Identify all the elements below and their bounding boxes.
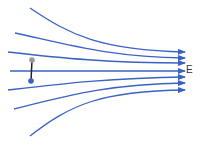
field-line-2 <box>15 33 185 58</box>
field-diagram <box>0 0 204 145</box>
dipole-rod <box>31 60 32 81</box>
field-line-1 <box>30 8 185 52</box>
negative-charge-icon <box>28 78 34 84</box>
field-label: E <box>186 64 193 75</box>
field-line-7 <box>30 90 185 136</box>
positive-charge-icon <box>29 57 35 63</box>
